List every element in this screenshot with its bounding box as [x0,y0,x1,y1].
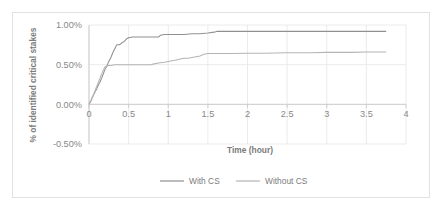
legend: With CSWithout CS [160,176,308,186]
x-tick-label: 3.5 [360,109,373,119]
series-line-without-cs [89,52,386,104]
x-tick-label: 0 [86,109,91,119]
x-tick-labels-group: 00.511.522.533.54 [86,109,408,119]
x-tick-label: 1 [166,109,171,119]
chart-figure: 00.511.522.533.54 1.00%0.50%0.00%-0.50% … [0,0,445,211]
x-tick-label: 1.5 [201,109,214,119]
legend-label: Without CS [265,176,308,186]
y-tick-label: -0.50% [53,139,82,149]
y-axis-title: % of identified critical stakes [28,27,38,142]
x-tick-label: 4 [403,109,408,119]
x-tick-label: 3 [324,109,329,119]
x-tick-label: 0.5 [122,109,135,119]
y-tick-label: 0.00% [56,100,82,110]
x-tick-label: 2 [245,109,250,119]
y-tick-labels-group: 1.00%0.50%0.00%-0.50% [53,20,82,149]
y-tick-label: 1.00% [56,20,82,30]
y-tick-label: 0.50% [56,60,82,70]
line-chart: 00.511.522.533.54 1.00%0.50%0.00%-0.50% … [0,0,445,211]
legend-label: With CS [189,176,220,186]
x-tick-label: 2.5 [281,109,294,119]
x-axis-title: Time (hour) [227,145,273,155]
gridlines-group [89,25,406,144]
series-group [89,31,386,104]
series-line-with-cs [89,31,386,104]
